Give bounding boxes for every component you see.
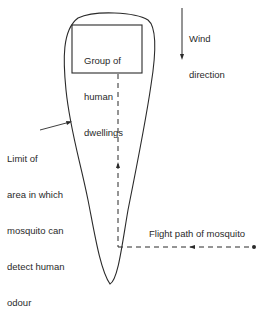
limit-label-line: detect human [7,261,65,273]
dwellings-label-line: human [84,91,123,103]
limit-label-line: odour [7,297,65,309]
dwellings-label-line: Group of [84,55,123,67]
limit-label-line: Limit of [7,153,65,165]
limit-label-line: mosquito can [7,225,65,237]
flight-path-label: Flight path of mosquito [149,228,245,240]
wind-arrow-icon [180,54,184,60]
wind-label-line: Wind [189,33,225,45]
flight-start-dot [252,245,256,249]
wind-direction-label: Wind direction [189,9,225,105]
dwellings-label: Group of human dwellings [84,31,123,163]
crosswind-arrow-icon [189,245,195,249]
dwellings-label-line: dwellings [84,127,123,139]
wind-label-line: direction [189,69,225,81]
limit-area-label: Limit of area in which mosquito can dete… [7,129,65,310]
limit-label-line: area in which [7,189,65,201]
